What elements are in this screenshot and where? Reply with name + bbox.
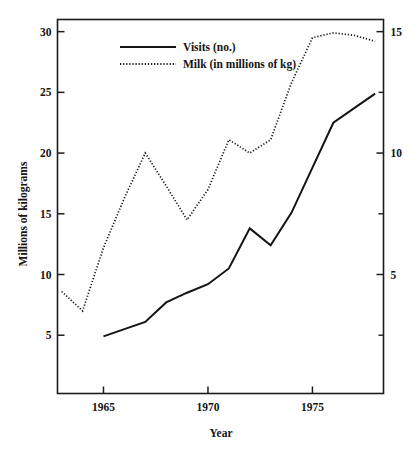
y-tick-label-right: 5 xyxy=(391,269,397,281)
line-chart: 51015202530 51015 196519701975 Millions … xyxy=(0,0,420,453)
y-tick-label-left: 15 xyxy=(40,208,52,220)
y-tick-label-left: 30 xyxy=(40,26,52,38)
y-axis-right-labels: 51015 xyxy=(391,26,403,281)
y-axis-left-labels: 51015202530 xyxy=(40,26,52,342)
x-tick-label: 1965 xyxy=(92,401,115,413)
legend-label: Visits (no.) xyxy=(183,41,236,54)
series-line-dotted xyxy=(62,33,375,311)
chart-legend: Visits (no.)Milk (in millions of kg) xyxy=(120,41,296,71)
series-line-solid xyxy=(103,94,375,337)
y-axis-title: Millions of kilograms xyxy=(17,161,30,266)
y-axis-right-ticks xyxy=(377,32,384,275)
x-axis-ticks xyxy=(103,387,312,394)
y-tick-label-left: 25 xyxy=(40,86,52,98)
y-tick-label-right: 15 xyxy=(391,26,403,38)
y-tick-label-left: 10 xyxy=(40,269,52,281)
series-layer xyxy=(62,33,375,337)
y-tick-label-right: 10 xyxy=(391,147,403,159)
plot-frame xyxy=(58,20,384,394)
x-axis-labels: 196519701975 xyxy=(92,401,324,413)
chart-figure: 51015202530 51015 196519701975 Millions … xyxy=(0,0,420,453)
y-axis-left-ticks xyxy=(58,32,65,336)
x-tick-label: 1975 xyxy=(301,401,324,413)
legend-label: Milk (in millions of kg) xyxy=(183,58,296,71)
x-axis-title: Year xyxy=(210,427,233,439)
y-tick-label-left: 5 xyxy=(46,329,52,341)
x-tick-label: 1970 xyxy=(196,401,219,413)
y-tick-label-left: 20 xyxy=(40,147,52,159)
